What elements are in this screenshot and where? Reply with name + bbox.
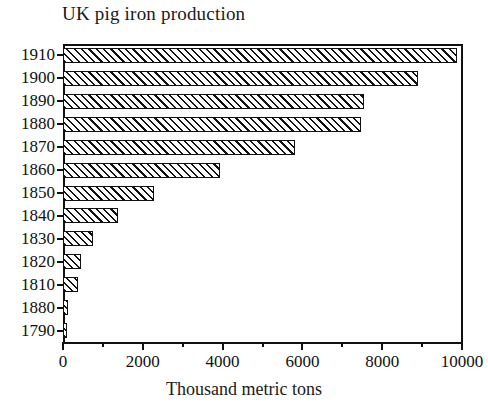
y-axis-tick-label: 1900 [0,69,55,86]
x-axis-tick-label: 2000 [126,352,160,372]
bar [63,71,418,86]
y-axis-tick [57,238,64,240]
bar [63,140,295,155]
axis-spine-top [63,44,463,46]
y-axis-tick [57,146,64,148]
plot-area [63,44,462,342]
bar [63,254,81,269]
y-axis-tick-label: 1850 [0,184,55,201]
chart-figure: UK pig iron production 19101900189018801… [0,0,488,409]
y-axis-tick-label: 1910 [0,46,55,63]
y-axis-tick-label: 1790 [0,322,55,339]
bar [63,231,93,246]
y-axis-tick-label: 1810 [0,276,55,293]
y-axis-tick [57,261,64,263]
bar [63,117,361,132]
x-axis-tick-label: 6000 [285,352,319,372]
y-axis-tick-label: 1890 [0,92,55,109]
x-axis-ticks [63,342,463,352]
y-axis-tick [57,100,64,102]
bar [63,48,457,63]
y-axis-tick [57,192,64,194]
x-axis-minor-tick [341,342,343,347]
y-axis-labels: 1910190018901880187018601850184018301820… [0,44,55,342]
y-axis-tick [57,54,64,56]
x-axis-minor-tick [421,342,423,347]
x-axis-tick [142,342,144,350]
x-axis-tick [301,342,303,350]
bar [63,94,364,109]
x-axis-tick-label: 0 [59,352,68,372]
x-axis-minor-tick [182,342,184,347]
x-axis-tick [222,342,224,350]
bar [63,186,154,201]
x-axis-tick-label: 10000 [441,352,484,372]
y-axis-tick-label: 1870 [0,138,55,155]
y-axis-tick [57,77,64,79]
x-axis-tick-labels: 0200040006000800010000 [0,352,488,374]
y-axis-tick [57,215,64,217]
x-axis-tick [381,342,383,350]
x-axis-tick [62,342,64,350]
y-axis-tick-label: 1880 [0,115,55,132]
y-axis-tick-label: 1880 [0,299,55,316]
bar [63,208,118,223]
y-axis-tick [57,284,64,286]
y-axis-tick [57,123,64,125]
x-axis-tick-label: 8000 [365,352,399,372]
y-axis-tick [57,169,64,171]
x-axis-minor-tick [262,342,264,347]
x-axis-tick-label: 4000 [206,352,240,372]
bar [63,277,78,292]
y-axis-tick [57,307,64,309]
x-axis-minor-tick [102,342,104,347]
chart-title: UK pig iron production [62,2,245,26]
y-axis-tick [57,330,64,332]
y-axis-tick-label: 1840 [0,207,55,224]
y-axis-tick-label: 1820 [0,253,55,270]
axis-spine-right [461,44,463,344]
x-axis-title: Thousand metric tons [0,378,488,400]
bar [63,163,220,178]
y-axis-tick-label: 1830 [0,230,55,247]
x-axis-tick [461,342,463,350]
y-axis-tick-label: 1860 [0,161,55,178]
